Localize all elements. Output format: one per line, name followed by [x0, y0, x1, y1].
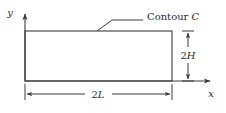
- width-dim-variable: L: [97, 89, 105, 100]
- width-dimension-group: 2L: [25, 84, 172, 100]
- y-axis-label: y: [6, 7, 13, 18]
- leader-line: [97, 20, 143, 31]
- contour-rectangle: [25, 31, 172, 81]
- height-dimension-label: 2H: [180, 50, 195, 61]
- figure-container: y x 2H 2L Contour C: [0, 0, 226, 113]
- contour-callout-label: Contour C: [147, 11, 200, 22]
- height-dimension-group: 2H: [180, 31, 195, 81]
- contour-rectangle-group: [25, 31, 172, 81]
- height-dim-variable: H: [186, 50, 196, 61]
- x-axis-label: x: [208, 88, 214, 99]
- contour-diagram: y x 2H 2L Contour C: [0, 0, 226, 113]
- contour-callout-leader: [97, 20, 143, 31]
- contour-callout-prefix: Contour: [147, 11, 189, 22]
- contour-callout-symbol: C: [192, 11, 200, 22]
- width-dimension-label: 2L: [91, 89, 104, 100]
